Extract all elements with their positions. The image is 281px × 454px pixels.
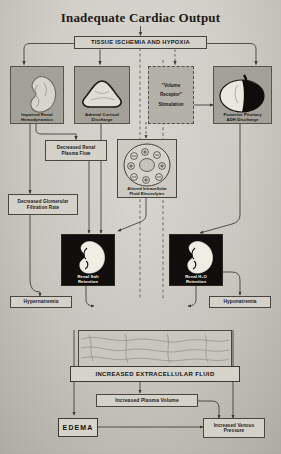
page-title: Inadequate Cardiac Output bbox=[0, 10, 281, 26]
node-impaired-renal-hemodynamics[interactable]: Impaired Renal Hemodynamics bbox=[10, 66, 64, 124]
node-decreased-gfr[interactable]: Decreased Glomerular Filtration Rate bbox=[8, 194, 78, 215]
extracellular-fluid-image bbox=[78, 330, 232, 368]
node-adrenal-cortical-discharge[interactable]: Adrenal Cortical Discharge bbox=[74, 66, 130, 124]
node-increased-plasma-volume[interactable]: Increased Plasma Volume bbox=[96, 394, 198, 407]
node-volume-receptor-line3: Stimulation bbox=[158, 100, 183, 109]
node-adrenal-cortical-discharge-caption: Adrenal Cortical Discharge bbox=[75, 112, 129, 123]
node-volume-receptor-stimulation[interactable]: "Volume Receptor" Stimulation bbox=[148, 66, 194, 124]
node-tissue-ischemia[interactable]: TISSUE ISCHEMIA AND HYPOXIA bbox=[74, 36, 207, 49]
node-tissue-ischemia-label: TISSUE ISCHEMIA AND HYPOXIA bbox=[91, 39, 190, 45]
node-increased-extracellular-fluid[interactable]: INCREASED EXTRACELLULAR FLUID bbox=[70, 366, 240, 382]
node-impaired-renal-hemodynamics-caption: Impaired Renal Hemodynamics bbox=[11, 112, 63, 123]
node-renal-salt-retention-caption: Renal Salt Retention bbox=[62, 274, 114, 285]
node-decreased-renal-plasma-flow[interactable]: Decreased Renal Plasma Flow bbox=[45, 140, 107, 161]
node-posterior-pituitary-adh-discharge[interactable]: Posterior Pituitary ADH Discharge bbox=[213, 66, 272, 124]
flowchart-page: Inadequate Cardiac Output TISSUE ISCHEMI… bbox=[0, 0, 281, 454]
node-renal-salt-retention[interactable]: Renal Salt Retention bbox=[61, 234, 115, 286]
node-posterior-pituitary-caption: Posterior Pituitary ADH Discharge bbox=[214, 112, 271, 123]
node-electrolytes-caption: Altered Intracellular Fluid Electrolytes bbox=[118, 186, 176, 197]
node-increased-venous-pressure[interactable]: Increased Venous Pressure bbox=[203, 418, 265, 438]
node-volume-receptor-line2: Receptor" bbox=[160, 90, 182, 99]
node-volume-receptor-line1: "Volume bbox=[162, 81, 180, 90]
node-altered-intracellular-fluid-electrolytes[interactable]: Altered Intracellular Fluid Electrolytes bbox=[117, 139, 177, 198]
node-hyponatremia[interactable]: Hyponatremia bbox=[209, 296, 271, 308]
extracellular-fluid-icon bbox=[79, 331, 231, 367]
node-hypernatremia[interactable]: Hypernatremia bbox=[10, 296, 72, 308]
node-renal-water-retention[interactable]: Renal H₂O Retention bbox=[169, 234, 223, 286]
node-edema[interactable]: EDEMA bbox=[58, 418, 98, 437]
node-renal-water-retention-caption: Renal H₂O Retention bbox=[170, 274, 222, 285]
